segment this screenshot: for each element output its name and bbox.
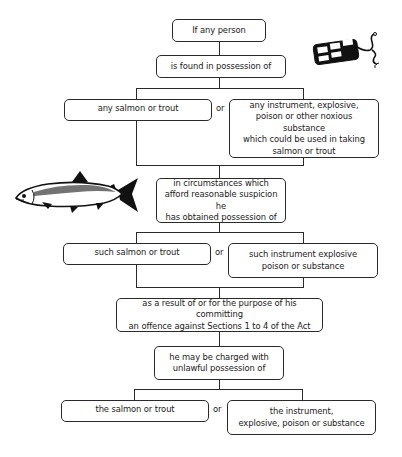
node-such-instrument: such instrument explosive poison or subs… (228, 243, 378, 278)
connector-branch-3-right (302, 389, 303, 400)
node-any-instrument: any instrument, explosive, poison or oth… (229, 99, 379, 158)
connector-branch-3-left (134, 389, 135, 400)
connector-branch-1 (136, 88, 304, 89)
connector-merge-1-left (136, 120, 137, 165)
node-may-be-charged: he may be charged with unlawful possessi… (154, 346, 284, 380)
connector-purpose-charged (219, 331, 220, 346)
connector-merge-2-right (303, 277, 304, 287)
connector-branch-3 (134, 389, 303, 390)
connector-merge-1 (136, 165, 304, 166)
connector-found-branch (219, 77, 220, 88)
node-any-salmon-or-trout: any salmon or trout (64, 99, 212, 121)
node-the-instrument: the instrument, explosive, poison or sub… (227, 400, 376, 435)
connector-merge-2 (136, 287, 304, 288)
dynamite-icon (312, 30, 390, 70)
connector-branch-2 (136, 232, 304, 233)
connector-start-found (219, 41, 220, 55)
connector-circumstances-branch (219, 222, 220, 232)
salmon-fish-icon (8, 168, 140, 218)
connector-merge-2-left (136, 264, 137, 287)
node-found-in-possession: is found in possession of (156, 55, 286, 78)
connector-branch-1-left (136, 88, 137, 99)
connector-branch-1-right (303, 88, 304, 99)
connector-merge-2-down (219, 287, 220, 298)
or-label-2: or (215, 247, 224, 258)
or-label-1: or (216, 103, 225, 114)
connector-charged-branch (219, 379, 220, 389)
node-such-salmon-or-trout: such salmon or trout (63, 243, 211, 265)
connector-branch-2-right (303, 232, 304, 243)
node-in-circumstances: in circumstances which afford reasonable… (156, 178, 286, 223)
node-the-salmon-or-trout: the salmon or trout (61, 400, 209, 422)
or-label-3: or (213, 404, 222, 415)
connector-merge-1-right (303, 157, 304, 165)
connector-branch-2-left (136, 232, 137, 243)
connector-merge-1-down (219, 165, 220, 178)
node-if-any-person: If any person (172, 19, 266, 42)
node-as-a-result: as a result of or for the purpose of his… (116, 298, 323, 332)
